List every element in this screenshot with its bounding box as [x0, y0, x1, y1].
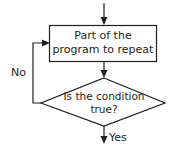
- process-line-2: program to repeat: [49, 43, 157, 57]
- no-loop-arrow: [33, 40, 50, 104]
- process-to-decision-arrow: [101, 62, 108, 78]
- yes-label: Yes: [109, 131, 127, 144]
- no-label: No: [11, 66, 26, 79]
- process-line-1: Part of the: [49, 29, 157, 43]
- yes-exit-arrow: [101, 126, 108, 144]
- flowchart-canvas: [0, 0, 177, 149]
- decision-label: Is the condition true?: [54, 90, 154, 116]
- entry-arrow: [101, 3, 108, 25]
- process-box-label: Part of the program to repeat: [49, 29, 157, 57]
- decision-line-1: Is the condition: [54, 90, 154, 103]
- decision-line-2: true?: [54, 103, 154, 116]
